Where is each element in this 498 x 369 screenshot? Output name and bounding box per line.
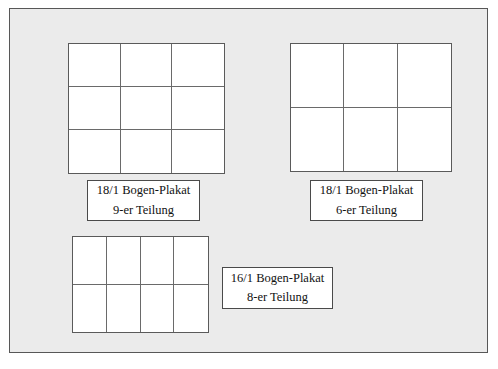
caption-line-division: 6-er Teilung (336, 201, 397, 220)
poster-grid-cell (172, 130, 224, 173)
poster-grid-cell (398, 108, 451, 172)
poster-grid-cell (291, 44, 344, 108)
poster-grid-cell (121, 44, 173, 87)
caption-line-division: 9-er Teilung (113, 201, 174, 220)
poster-grid-cell (107, 237, 141, 285)
caption-6-division: 18/1 Bogen-Plakat 6-er Teilung (310, 180, 423, 221)
poster-grid-6-division (290, 43, 452, 172)
diagram-page: 18/1 Bogen-Plakat 9-er Teilung 18/1 Boge… (0, 0, 498, 369)
poster-grid-cell (141, 237, 175, 285)
poster-grid-cell (174, 285, 208, 333)
poster-grid-cell (107, 285, 141, 333)
poster-grid-cell (398, 44, 451, 108)
poster-grid-cell (121, 130, 173, 173)
poster-grid-8-division (72, 236, 209, 333)
poster-grid-cell (172, 44, 224, 87)
caption-line-format: 16/1 Bogen-Plakat (231, 269, 324, 288)
poster-grid-cell (73, 237, 107, 285)
caption-line-division: 8-er Teilung (247, 288, 308, 307)
poster-grid-cell (344, 44, 397, 108)
poster-grid-cell (69, 130, 121, 173)
poster-grid-9-division (68, 43, 225, 174)
diagram-outer-frame: 18/1 Bogen-Plakat 9-er Teilung 18/1 Boge… (9, 8, 488, 353)
poster-grid-cell (141, 285, 175, 333)
poster-grid-cell (174, 237, 208, 285)
caption-line-format: 18/1 Bogen-Plakat (97, 181, 190, 200)
poster-grid-cell (73, 285, 107, 333)
caption-8-division: 16/1 Bogen-Plakat 8-er Teilung (222, 267, 333, 309)
poster-grid-cell (121, 87, 173, 130)
poster-grid-cell (344, 108, 397, 172)
caption-line-format: 18/1 Bogen-Plakat (320, 181, 413, 200)
poster-grid-cell (172, 87, 224, 130)
poster-grid-cell (69, 44, 121, 87)
poster-grid-cell (291, 108, 344, 172)
caption-9-division: 18/1 Bogen-Plakat 9-er Teilung (87, 180, 200, 221)
poster-grid-cell (69, 87, 121, 130)
